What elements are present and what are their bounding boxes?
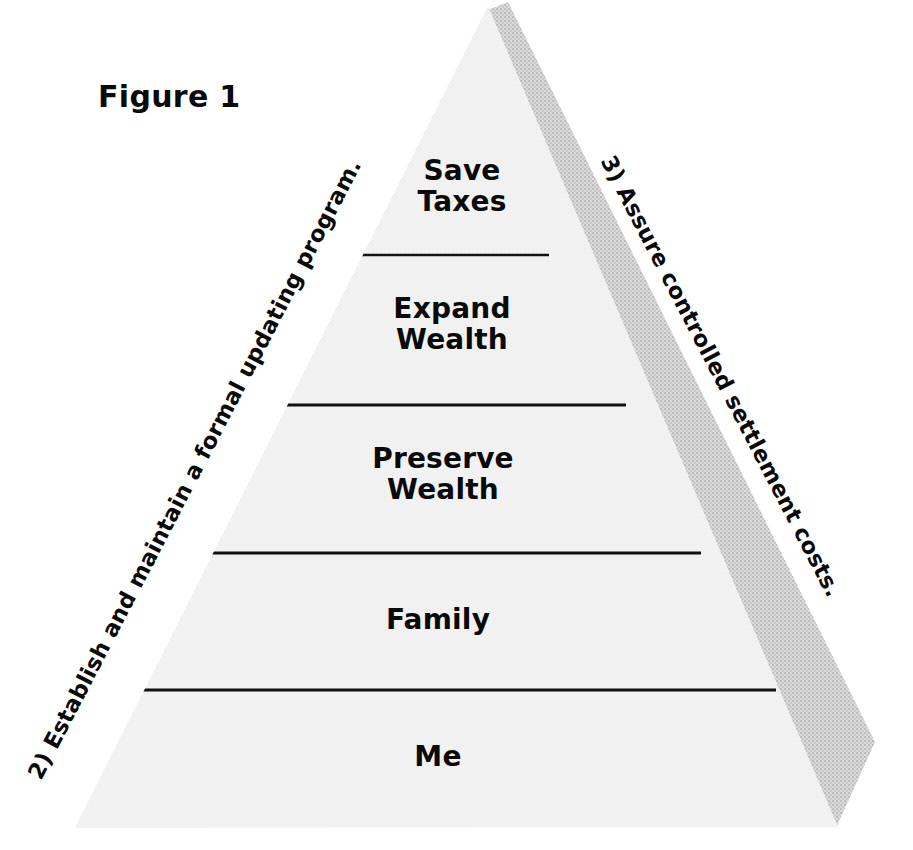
pyramid-tier-save-taxes: Save Taxes [332,155,592,218]
figure-container: Figure 1 [0,0,913,850]
pyramid-tier-expand-wealth: Expand Wealth [302,293,602,356]
pyramid-diagram [0,0,913,850]
pyramid-tier-preserve-wealth: Preserve Wealth [273,443,613,506]
pyramid-tier-me: Me [248,741,628,772]
pyramid-front-face [75,6,838,828]
pyramid-tier-family: Family [258,604,618,635]
